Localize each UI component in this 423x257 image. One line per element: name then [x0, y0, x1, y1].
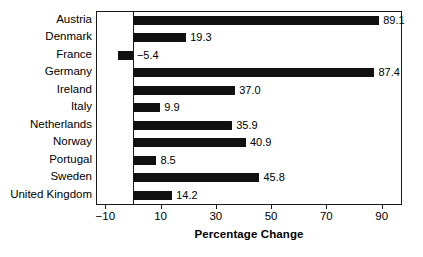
- x-tick-mark: [382, 205, 383, 209]
- bar-value-label: 14.2: [176, 187, 197, 205]
- x-tick-label: −10: [96, 210, 116, 222]
- x-axis-title: Percentage Change: [96, 228, 402, 240]
- bar-value-label: −5.4: [137, 47, 159, 65]
- bar-row: 9.9: [97, 99, 401, 116]
- bar-row: 35.9: [97, 117, 401, 134]
- bar: [133, 121, 232, 130]
- x-tick-label: 50: [265, 210, 278, 222]
- x-tick-mark: [326, 205, 327, 209]
- bar-row: 14.2: [97, 187, 401, 204]
- category-label: Norway: [53, 133, 92, 150]
- category-label: United Kingdom: [10, 186, 92, 203]
- x-tick-label: 10: [154, 210, 167, 222]
- bar-value-label: 9.9: [164, 99, 179, 117]
- bar-row: 8.5: [97, 152, 401, 169]
- bar-value-label: 8.5: [160, 152, 175, 170]
- x-tick-label: 30: [209, 210, 222, 222]
- category-label: Denmark: [45, 28, 92, 45]
- bar: [133, 16, 379, 25]
- category-label: Germany: [45, 63, 92, 80]
- bar-value-label: 87.4: [378, 64, 399, 82]
- bar: [133, 173, 260, 182]
- category-label: Sweden: [50, 168, 92, 185]
- bar: [133, 68, 375, 77]
- category-label: France: [56, 46, 92, 63]
- bar-value-label: 45.8: [264, 169, 285, 187]
- x-tick-mark: [216, 205, 217, 209]
- bar-row: 87.4: [97, 64, 401, 81]
- bar: [133, 86, 235, 95]
- bar-value-label: 37.0: [239, 82, 260, 100]
- bar-value-label: 19.3: [190, 29, 211, 47]
- bar-value-label: 35.9: [236, 117, 257, 135]
- category-label: Italy: [71, 98, 92, 115]
- bar: [133, 156, 156, 165]
- x-tick-mark: [105, 205, 106, 209]
- bar-value-label: 40.9: [250, 134, 271, 152]
- x-tick-mark: [271, 205, 272, 209]
- category-label: Portugal: [49, 151, 92, 168]
- bar: [133, 33, 186, 42]
- bar-row: −5.4: [97, 47, 401, 64]
- bar-row: 37.0: [97, 82, 401, 99]
- bar: [133, 103, 160, 112]
- bar-row: 89.1: [97, 12, 401, 29]
- bar: [133, 191, 172, 200]
- plot-area: 89.119.3−5.487.437.09.935.940.98.545.814…: [96, 11, 402, 205]
- x-tick-mark: [161, 205, 162, 209]
- category-label: Netherlands: [30, 116, 92, 133]
- bar-row: 45.8: [97, 169, 401, 186]
- bar: [118, 51, 133, 60]
- category-label: Ireland: [57, 81, 92, 98]
- bar-row: 40.9: [97, 134, 401, 151]
- x-tick-label: 70: [320, 210, 333, 222]
- bar: [133, 138, 246, 147]
- x-tick-label: 90: [375, 210, 388, 222]
- bar-row: 19.3: [97, 29, 401, 46]
- category-label: Austria: [56, 11, 92, 28]
- bar-chart-figure: AustriaDenmarkFranceGermanyIrelandItalyN…: [0, 0, 423, 257]
- bar-value-label: 89.1: [383, 12, 404, 30]
- category-axis: AustriaDenmarkFranceGermanyIrelandItalyN…: [0, 11, 92, 205]
